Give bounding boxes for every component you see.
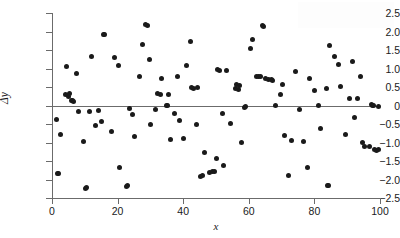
data-point <box>224 68 229 73</box>
x-axis-title: x <box>52 220 380 232</box>
data-point <box>184 63 189 68</box>
data-point <box>200 173 205 178</box>
data-point <box>81 139 86 144</box>
x-axis-tick <box>183 198 184 204</box>
data-point <box>318 126 323 131</box>
data-point <box>177 118 182 123</box>
data-point <box>371 103 376 108</box>
data-point <box>64 64 69 69</box>
zero-reference-line <box>52 106 380 107</box>
data-point <box>324 86 329 91</box>
data-point <box>217 68 222 73</box>
data-point <box>125 183 130 188</box>
x-axis-tick-label: 60 <box>229 206 269 217</box>
data-point <box>194 122 199 127</box>
data-point <box>67 91 72 96</box>
data-point <box>76 109 81 114</box>
data-point <box>376 147 381 152</box>
data-point <box>181 136 186 141</box>
data-point <box>89 54 94 59</box>
data-point <box>158 92 163 97</box>
scatter-plot-figure: 2.52.01.51.00.50−0.5−1.0−1.5−2.0−2.5 Δy … <box>0 0 400 238</box>
data-point <box>74 71 79 76</box>
data-point <box>132 134 137 139</box>
data-point <box>102 32 107 37</box>
data-point <box>54 117 59 122</box>
x-axis-tick-label: 40 <box>163 206 203 217</box>
data-point <box>338 84 343 89</box>
x-axis-line <box>52 198 380 199</box>
data-point <box>109 129 114 134</box>
data-point <box>286 173 291 178</box>
data-point <box>316 103 321 108</box>
data-point <box>325 183 330 188</box>
data-point <box>145 23 150 28</box>
data-point <box>96 108 101 113</box>
data-point <box>168 137 173 142</box>
data-point <box>352 115 357 120</box>
data-point <box>117 165 122 170</box>
data-point <box>175 74 180 79</box>
data-point <box>289 138 294 143</box>
data-point <box>148 122 153 127</box>
data-point <box>350 59 355 64</box>
data-point <box>147 57 152 62</box>
x-axis-tick-label: 80 <box>294 206 334 217</box>
x-axis-tick <box>314 198 315 204</box>
data-point <box>153 107 158 112</box>
data-point <box>336 62 341 67</box>
data-point <box>347 96 352 101</box>
data-point <box>116 63 121 68</box>
x-axis-tick <box>118 198 119 204</box>
data-point <box>188 39 193 44</box>
data-point <box>220 111 225 116</box>
data-point <box>191 86 196 91</box>
data-point <box>214 156 219 161</box>
x-axis-tick-label: 0 <box>32 206 72 217</box>
x-axis-tick-label: 100 <box>360 206 400 217</box>
data-point <box>301 139 306 144</box>
x-axis-tick <box>52 198 53 204</box>
data-point <box>282 133 287 138</box>
data-point <box>376 104 381 109</box>
data-point <box>172 111 177 116</box>
data-point <box>165 103 170 108</box>
data-point <box>87 109 92 114</box>
data-point <box>130 112 135 117</box>
data-point <box>305 165 310 170</box>
data-point <box>236 87 241 92</box>
data-point <box>137 74 142 79</box>
data-point <box>93 123 98 128</box>
data-point <box>159 76 164 81</box>
data-point <box>297 107 302 112</box>
x-axis-tick <box>249 198 250 204</box>
data-point <box>332 54 337 59</box>
data-point <box>273 103 278 108</box>
data-point <box>343 132 348 137</box>
data-point <box>212 169 217 174</box>
data-point <box>127 106 132 111</box>
data-point <box>355 96 360 101</box>
data-point <box>202 150 207 155</box>
data-point <box>56 171 61 176</box>
x-axis-tick <box>380 198 381 204</box>
data-point <box>99 119 104 124</box>
data-point <box>358 74 363 79</box>
data-point <box>367 144 372 149</box>
data-point <box>261 24 266 29</box>
x-axis-tick-label: 20 <box>98 206 138 217</box>
data-point <box>71 99 76 104</box>
data-point <box>248 46 253 51</box>
data-point <box>278 92 283 97</box>
data-point <box>84 185 89 190</box>
data-point <box>312 88 317 93</box>
data-point <box>221 163 226 168</box>
data-point <box>239 140 244 145</box>
data-point <box>293 69 298 74</box>
data-point <box>195 85 200 90</box>
data-point <box>327 43 332 48</box>
data-point <box>243 104 248 109</box>
plot-area <box>52 13 380 198</box>
data-point <box>280 82 285 87</box>
data-point <box>166 92 171 97</box>
